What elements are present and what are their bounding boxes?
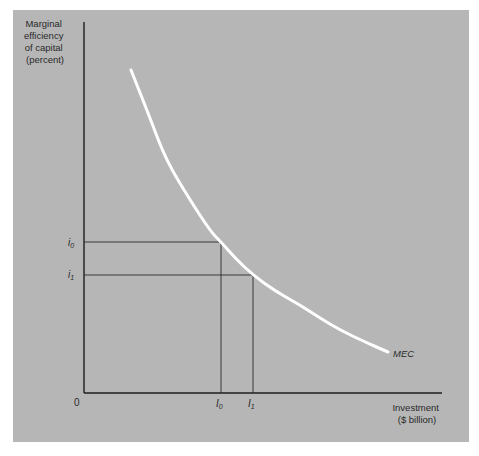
y-tick-i1: i1 xyxy=(68,269,74,281)
mec-chart: Marginal efficiency of capital (percent)… xyxy=(0,0,479,456)
y-axis-label: Marginal efficiency of capital (percent) xyxy=(24,18,66,65)
mec-curve-label: MEC xyxy=(393,348,414,359)
mec-curve xyxy=(131,70,388,352)
x-tick-I0: I0 xyxy=(216,398,223,410)
origin-label: 0 xyxy=(74,397,80,408)
x-axis-label: Investment ($ billion) xyxy=(392,402,441,425)
y-tick-i0: i0 xyxy=(68,237,74,249)
reference-lines xyxy=(84,242,253,393)
x-tick-I1: I1 xyxy=(248,398,255,410)
